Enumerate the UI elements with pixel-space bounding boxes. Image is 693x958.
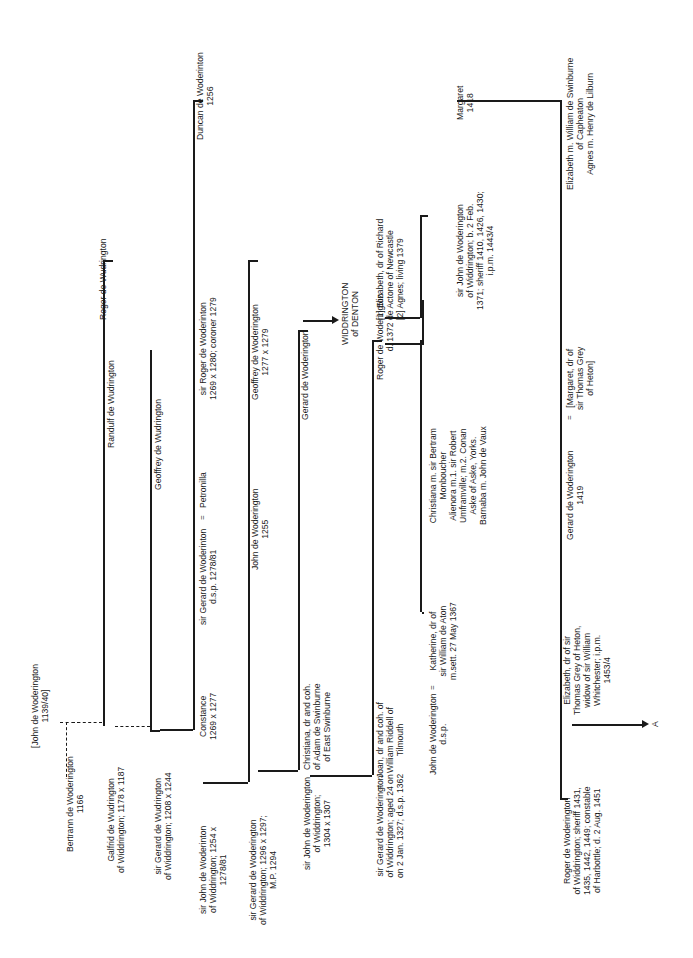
person-john-dsp: John de Woderington d.s.p. [428,693,448,775]
person-john-1139: [John de Woderington 1139/40] [30,664,50,748]
person-roger-wud: Roger de Wudrington [98,238,108,320]
marriage-symbol: = [375,785,384,790]
sibling-bar [372,340,374,775]
person-randulf: Randulf de Wudrington [106,360,116,448]
sibling-bar [422,300,424,345]
person-christiana-daughters: Christiana m. sir Bertram Monboucher Ali… [428,426,488,525]
arrow-right-icon [332,316,339,324]
person-john-1371: sir John de Woderington of Widdrington; … [455,191,495,310]
person-margaret-1418: Margaret 1418 [455,86,475,120]
person-christiana-swinburne: Christiana, dr and coh. of Adam de Swinb… [302,684,332,770]
sibling-bar [193,100,195,730]
sibling-bar [420,215,422,318]
person-elizabeth-actone: [1] Elizabeth, dr of Richard de Actone o… [375,219,405,320]
person-constance: Constance 1269 x 1277 [198,693,218,740]
arrow-right-icon [642,720,649,728]
person-joan-riddell: Joan, dr and coh. of William Riddell of … [375,702,405,778]
person-geoffrey-wud: Geoffrey de Wudrington [153,399,163,490]
descent-line [258,770,298,772]
dashed-descent-line [115,726,150,727]
person-gerard-denton: Gerard de Woderington [300,330,310,420]
person-john-1254: sir John de Woderinton of Widdrington; 1… [198,826,228,914]
descent-line [572,724,642,726]
person-john-1304: sir John de Woderington of Widdrington; … [302,777,332,870]
person-roger-coroner: sir Roger de Woderinton 1269 x 1280; cor… [198,297,218,400]
branch-line [420,215,428,217]
person-margaret-grey: [Margaret, dr of sir Thomas Grey of Heto… [565,347,595,410]
person-petronilla: Petronilla [198,472,208,508]
dashed-descent-line [72,722,102,723]
branch-line [248,260,258,262]
person-geoffrey-1277: Geoffrey de Woderington 1277 x 1279 [250,304,270,400]
marriage-symbol: = [198,515,207,520]
descent-line [303,320,333,322]
person-gerard-1296: sir Gerard de Woderington of Widdrington… [248,815,278,925]
branch-line [422,343,424,345]
continuation-label: A [650,721,660,727]
descent-line [203,782,248,784]
branch-widdrington-denton: WIDDRINGTON of DENTON [340,283,360,345]
person-katherine-aton: Katherine, dr of sir William de Aton m.s… [428,602,458,680]
descent-line [160,729,193,731]
person-gerard-1208: sir Gerard de Wudrington of Widdrington;… [153,773,173,881]
marriage-symbol: = [428,685,437,690]
marriage-symbol: = [565,415,574,420]
branch-line [150,730,160,732]
person-duncan: Duncan de Woderinton 1256 [195,52,215,140]
sibling-bar [150,350,152,730]
sibling-bar [420,340,422,612]
person-galfrid: Galfrid de Wudrington of Widdrington; 11… [106,767,126,873]
person-elizabeth-agnes: Elizabeth m. William de Swinburne of Cap… [565,58,595,190]
person-john-1255: John de Woderington 1255 [250,488,270,570]
person-bertrann: Bertrann de Woderington 1166 [65,756,85,852]
sibling-bar [103,260,105,726]
branch-line [422,612,424,614]
person-gerard-1419: Gerard de Woderington 1419 [565,450,585,540]
person-gerard-dsp: sir Gerard de Woderinton d.s.p. 1278/81 [198,529,218,625]
person-roger-1431: Roger de Woderington of Widdrington; she… [562,787,602,895]
person-elizabeth-grey: Elizabeth, dr of sir Thomas Grey of Heto… [562,626,612,715]
